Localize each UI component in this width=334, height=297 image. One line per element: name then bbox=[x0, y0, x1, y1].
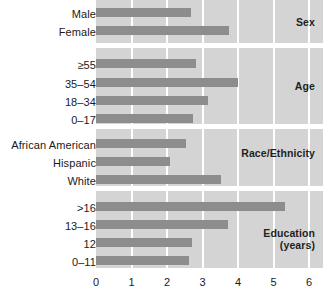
category-label-hispanic: Hispanic bbox=[53, 158, 96, 169]
bar-0-17 bbox=[96, 114, 193, 123]
group-label-race-ethnicity: Race/Ethnicity bbox=[241, 147, 315, 159]
gridline-4 bbox=[237, 0, 239, 268]
bar-male bbox=[96, 8, 191, 17]
bar-white bbox=[96, 175, 221, 184]
category-label-35-54: 35–54 bbox=[65, 79, 96, 90]
bar-55-plus bbox=[96, 59, 196, 68]
bar-0-11 bbox=[96, 256, 189, 265]
x-tick-6: 6 bbox=[306, 276, 312, 288]
x-tick-2: 2 bbox=[164, 276, 170, 288]
bar-african-american bbox=[96, 139, 186, 148]
x-tick-4: 4 bbox=[235, 276, 241, 288]
category-label-gt-16: >16 bbox=[77, 203, 96, 214]
category-label-13-16: 13–16 bbox=[65, 221, 96, 232]
group-label-age: Age bbox=[295, 80, 315, 92]
category-label-18-34: 18–34 bbox=[65, 97, 96, 108]
category-label-white: White bbox=[67, 176, 96, 187]
bar-female bbox=[96, 26, 229, 35]
bar-hispanic bbox=[96, 157, 170, 166]
category-label-55-plus: ≥55 bbox=[77, 60, 96, 71]
x-tick-5: 5 bbox=[270, 276, 276, 288]
category-label-0-11: 0–11 bbox=[72, 257, 96, 268]
category-label-male: Male bbox=[72, 9, 96, 20]
x-tick-0: 0 bbox=[93, 276, 99, 288]
group-label-education: Education (years) bbox=[263, 227, 315, 251]
group-label-education-line1: Education bbox=[263, 227, 315, 239]
bar-35-54 bbox=[96, 78, 238, 87]
bar-12 bbox=[96, 238, 192, 247]
bar-chart-figure: Male Female ≥55 35–54 18–34 0–17 African… bbox=[0, 0, 334, 297]
category-label-african-american: African American bbox=[11, 140, 96, 151]
category-label-female: Female bbox=[59, 27, 96, 38]
category-label-12: 12 bbox=[84, 239, 96, 250]
plot-area: Sex Age Race/Ethnicity Education (years) bbox=[96, 0, 323, 268]
group-label-education-line2: (years) bbox=[263, 239, 315, 251]
group-label-sex: Sex bbox=[296, 16, 315, 28]
category-label-0-17: 0–17 bbox=[71, 115, 96, 126]
bar-18-34 bbox=[96, 96, 208, 105]
x-tick-1: 1 bbox=[128, 276, 134, 288]
x-tick-3: 3 bbox=[199, 276, 205, 288]
bar-13-16 bbox=[96, 220, 228, 229]
x-axis: 0 1 2 3 4 5 6 bbox=[96, 268, 323, 297]
bar-gt-16 bbox=[96, 202, 285, 211]
